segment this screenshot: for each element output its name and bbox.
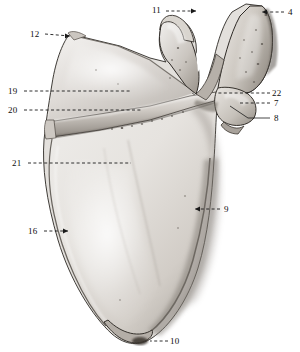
figure-label-4: 4 [288, 8, 293, 17]
figure-label-7: 7 [274, 99, 279, 108]
figure-label-20: 20 [8, 106, 17, 115]
figure-label-22: 22 [272, 89, 281, 98]
anatomical-figure-scapula: 11412192220782191610 [0, 0, 300, 352]
figure-label-11: 11 [152, 6, 161, 15]
spine-root [45, 120, 57, 139]
figure-label-21: 21 [12, 159, 21, 168]
inferior-angle-tip [132, 337, 148, 345]
figure-label-12: 12 [30, 30, 39, 39]
figure-label-8: 8 [274, 114, 279, 123]
figure-label-19: 19 [8, 87, 17, 96]
figure-label-10: 10 [170, 337, 179, 346]
bone-body [44, 4, 278, 345]
figure-label-16: 16 [28, 227, 37, 236]
figure-label-9: 9 [224, 205, 229, 214]
scapula-bone-illustration [0, 0, 300, 352]
